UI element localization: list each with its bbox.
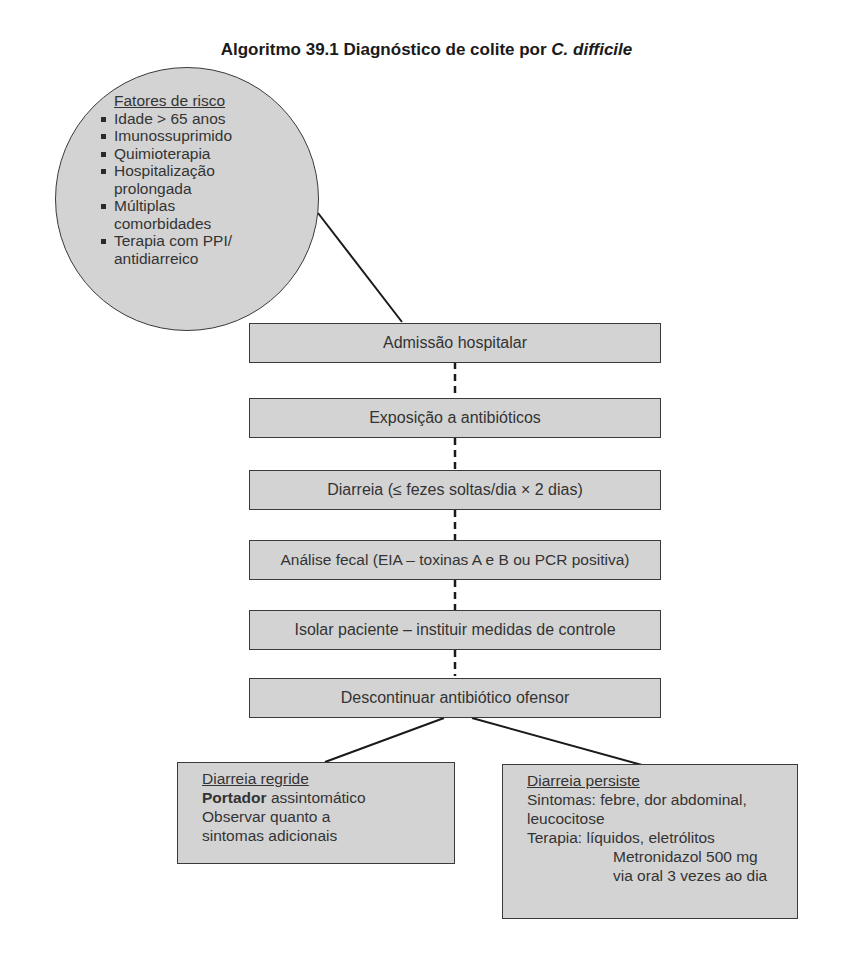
risk-factors-list: Idade > 65 anos Imunossuprimido Quimiote… xyxy=(98,110,232,268)
risk-factors-heading: Fatores de risco xyxy=(114,92,232,110)
risk-factor-item: Imunossuprimido xyxy=(98,127,232,145)
risk-factor-item: Idade > 65 anos xyxy=(98,110,232,128)
risk-factor-item: Múltiplascomorbidades xyxy=(98,197,232,232)
outcome-diarrhea-persists: Diarreia persiste Sintomas: febre, dor a… xyxy=(502,764,798,919)
outcome-heading: Diarreia regride xyxy=(202,769,444,788)
step-fecal-analysis: Análise fecal (EIA – toxinas A e B ou PC… xyxy=(249,540,661,580)
carrier-label: Portador xyxy=(202,789,267,806)
risk-factor-item: Hospitalizaçãoprolongada xyxy=(98,162,232,197)
step-diarrhea: Diarreia (≤ fezes soltas/dia × 2 dias) xyxy=(249,470,661,510)
step-antibiotic-exposure: Exposição a antibióticos xyxy=(249,398,661,438)
risk-factors: Fatores de risco Idade > 65 anos Imunoss… xyxy=(98,92,232,267)
step-isolate-patient: Isolar paciente – instituir medidas de c… xyxy=(249,610,661,650)
outcome-heading: Diarreia persiste xyxy=(527,771,787,790)
outcome-diarrhea-regresses: Diarreia regride Portador assintomático … xyxy=(177,762,455,864)
connector-to-regride xyxy=(325,718,444,762)
risk-factor-item: Quimioterapia xyxy=(98,145,232,163)
step-admission: Admissão hospitalar xyxy=(249,323,661,363)
connector-to-persiste xyxy=(472,718,642,765)
connector-risk-to-admission xyxy=(318,213,402,322)
step-discontinue-antibiotic: Descontinuar antibiótico ofensor xyxy=(249,678,661,718)
risk-factor-item: Terapia com PPI/antidiarreico xyxy=(98,232,232,267)
